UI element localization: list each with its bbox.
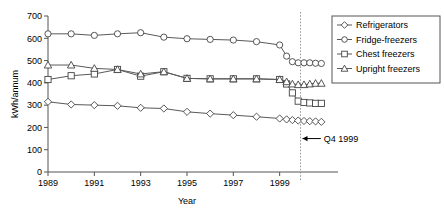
data-point-square-marker <box>312 100 318 106</box>
y-tick-label: 500 <box>27 56 42 66</box>
data-point-square-marker <box>45 76 51 82</box>
y-tick-label: 0 <box>37 167 42 177</box>
legend-item-label: Upright freezers <box>356 64 421 74</box>
data-point-diamond-marker <box>183 108 190 115</box>
data-point-circle-marker <box>277 42 283 48</box>
legend-item-label: Refrigerators <box>356 20 409 30</box>
data-point-circle-marker <box>230 37 236 43</box>
data-point-diamond-marker <box>318 118 325 125</box>
data-point-circle-marker <box>342 37 348 43</box>
series-line <box>48 69 321 103</box>
data-point-circle-marker <box>68 31 74 37</box>
data-point-diamond-marker <box>44 98 51 105</box>
data-point-diamond-marker <box>91 102 98 109</box>
data-point-circle-marker <box>301 60 307 66</box>
legend-layer: RefrigeratorsFridge-freezersChest freeze… <box>332 16 440 83</box>
data-point-circle-marker <box>253 39 259 45</box>
chart-figure: 0100200300400500600700198919911993199519… <box>0 0 444 213</box>
data-point-diamond-marker <box>137 104 144 111</box>
data-point-diamond-marker <box>114 102 121 109</box>
data-point-circle-marker <box>91 32 97 38</box>
y-tick-label: 200 <box>27 123 42 133</box>
data-point-circle-marker <box>312 60 318 66</box>
x-tick-label: 1999 <box>270 178 290 188</box>
x-tick-label: 1989 <box>38 178 58 188</box>
data-point-circle-marker <box>307 60 313 66</box>
data-point-diamond-marker <box>230 112 237 119</box>
data-point-square-marker <box>301 99 307 105</box>
data-point-diamond-marker <box>207 110 214 117</box>
data-point-square-marker <box>289 90 295 96</box>
x-axis-label: Year <box>178 196 196 206</box>
legend-item-label: Fridge-freezers <box>356 35 418 45</box>
data-point-circle-marker <box>138 30 144 36</box>
y-tick-label: 600 <box>27 34 42 44</box>
legend-item-label: Chest freezers <box>356 49 415 59</box>
data-point-diamond-marker <box>68 101 75 108</box>
data-point-circle-marker <box>289 59 295 65</box>
y-tick-label: 700 <box>27 11 42 21</box>
data-point-circle-marker <box>161 34 167 40</box>
data-point-square-marker <box>318 100 324 106</box>
data-point-circle-marker <box>114 31 120 37</box>
series-refrigerators <box>44 98 325 125</box>
y-tick-label: 100 <box>27 145 42 155</box>
annotation-arrowhead-icon <box>303 136 308 141</box>
data-point-circle-marker <box>284 53 290 59</box>
y-tick-label: 400 <box>27 78 42 88</box>
series-chest-freezers <box>45 66 325 106</box>
y-axis-label: kWh/annum <box>10 70 20 118</box>
x-tick-label: 1995 <box>177 178 197 188</box>
x-tick-label: 1991 <box>84 178 104 188</box>
data-point-circle-marker <box>207 36 213 42</box>
x-tick-label: 1993 <box>131 178 151 188</box>
data-point-diamond-marker <box>160 105 167 112</box>
axes-layer: 0100200300400500600700198919911993199519… <box>10 11 338 206</box>
data-point-circle-marker <box>45 31 51 37</box>
data-point-diamond-marker <box>253 113 260 120</box>
data-point-square-marker <box>342 51 348 57</box>
series-layer <box>44 30 325 126</box>
data-point-circle-marker <box>184 36 190 42</box>
data-point-square-marker <box>68 73 74 79</box>
annotation-label-q4-1999: Q4 1999 <box>324 134 359 144</box>
data-point-diamond-marker <box>276 115 283 122</box>
series-fridge-freezers <box>45 30 325 67</box>
data-point-circle-marker <box>318 60 324 66</box>
data-point-square-marker <box>307 100 313 106</box>
x-tick-label: 1997 <box>223 178 243 188</box>
line-chart-canvas: 0100200300400500600700198919911993199519… <box>0 0 444 213</box>
y-tick-label: 300 <box>27 100 42 110</box>
